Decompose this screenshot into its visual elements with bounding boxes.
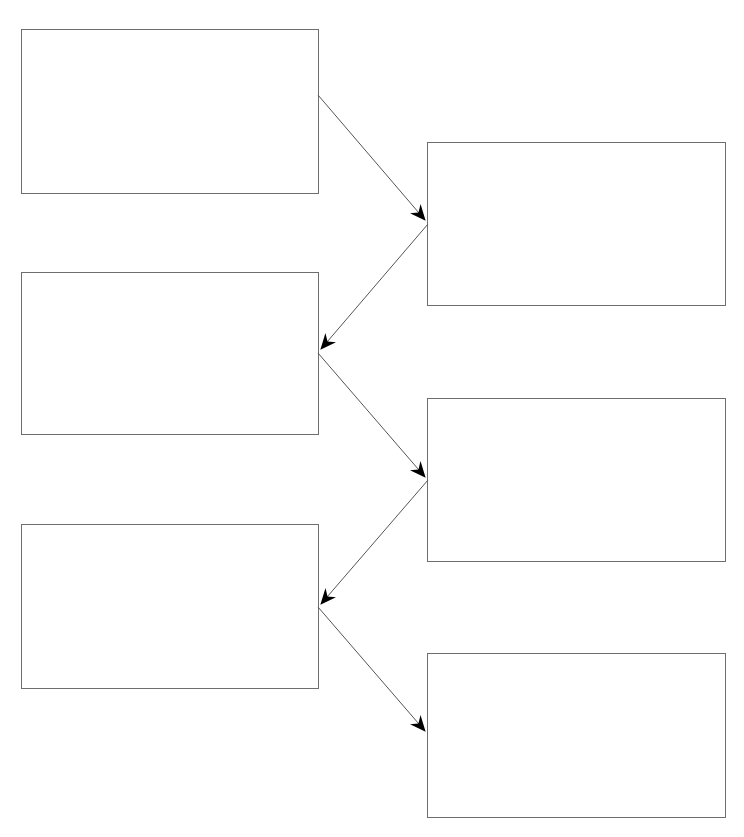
flowchart-canvas (0, 0, 744, 837)
flow-box-1 (21, 29, 319, 194)
arrow-box-1-to-box-2 (318, 95, 425, 220)
flow-box-6 (427, 653, 726, 818)
arrow-box-5-to-box-6 (318, 607, 425, 731)
flow-box-5 (21, 524, 319, 689)
arrow-box-3-to-box-4 (318, 353, 425, 477)
arrow-box-4-to-box-5 (321, 480, 428, 604)
flow-box-2 (427, 142, 726, 306)
flow-box-3 (21, 272, 319, 435)
arrow-connectors (318, 95, 428, 731)
flow-box-4 (427, 398, 726, 562)
arrow-box-2-to-box-3 (321, 224, 428, 349)
